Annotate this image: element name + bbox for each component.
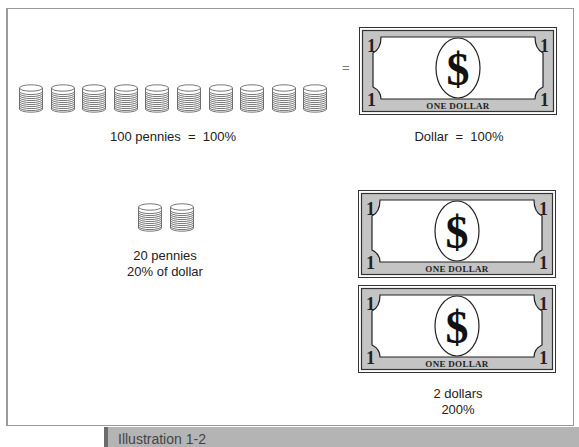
- caption-text: Illustration 1-2: [118, 431, 206, 447]
- equals-sign: =: [342, 60, 350, 75]
- caption-bar: Illustration 1-2: [104, 427, 579, 447]
- dollars-2-line2: 200%: [398, 402, 518, 418]
- penny-stack-icon: [144, 83, 170, 114]
- penny-stack-icon: [271, 83, 297, 114]
- coin-stacks-100-pennies: [18, 83, 328, 114]
- pennies-20-line1: 20 pennies: [105, 248, 225, 264]
- dollar-100-label: Dollar = 100%: [384, 129, 534, 145]
- pennies-100-label: 100 pennies = 100%: [98, 129, 248, 145]
- pennies-20-label: 20 pennies 20% of dollar: [105, 248, 225, 280]
- penny-stack-icon: [18, 83, 44, 114]
- dollars-2-line1: 2 dollars: [398, 386, 518, 402]
- coin-stacks-20-pennies: [137, 202, 195, 233]
- penny-stack-icon: [137, 202, 163, 233]
- penny-stack-icon: [302, 83, 328, 114]
- dollar-bill-icon: [358, 190, 556, 278]
- penny-stack-icon: [113, 83, 139, 114]
- penny-stack-icon: [176, 83, 202, 114]
- dollar-bill-icon: [358, 285, 556, 373]
- penny-stack-icon: [81, 83, 107, 114]
- dollar-bill-icon: [359, 27, 557, 115]
- penny-stack-icon: [208, 83, 234, 114]
- dollars-2-label: 2 dollars 200%: [398, 386, 518, 418]
- penny-stack-icon: [50, 83, 76, 114]
- penny-stack-icon: [169, 202, 195, 233]
- pennies-20-line2: 20% of dollar: [105, 264, 225, 280]
- penny-stack-icon: [239, 83, 265, 114]
